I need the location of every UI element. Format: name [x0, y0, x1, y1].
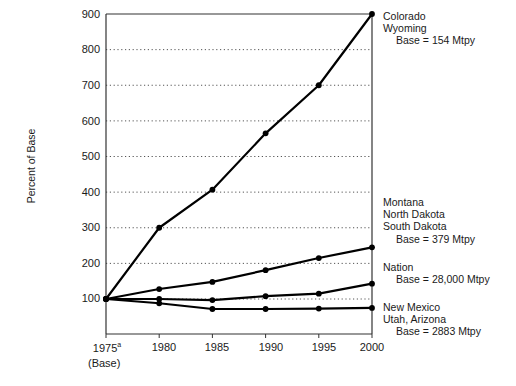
data-point-s2-1995 — [316, 291, 322, 297]
series-label-montana-dakotas: Montana North Dakota South Dakota Base =… — [383, 196, 475, 245]
series-label-line-colorado: Colorado — [383, 10, 475, 22]
series-label-new-mexico-utah-arizona: New Mexico Utah, Arizona Base = 2883 Mtp… — [383, 301, 481, 338]
data-point-s2-1985 — [210, 297, 216, 303]
data-point-s0-1980 — [156, 225, 162, 231]
series-label-line-new-mexico: New Mexico — [383, 301, 481, 313]
x-tick-2000: 2000 — [349, 341, 395, 353]
data-point-s1-2000 — [369, 244, 375, 250]
x-tick-1975-superscript: a — [117, 341, 121, 348]
series-label-line-nation: Nation — [383, 261, 490, 273]
data-point-s3-1985 — [210, 306, 216, 312]
series-layer — [103, 11, 375, 312]
data-point-s2-1990 — [263, 293, 269, 299]
plot-frame — [106, 14, 372, 338]
series-label-line-north-dakota: North Dakota — [383, 208, 475, 220]
x-tick-1995: 1995 — [301, 341, 347, 353]
series-label-line-montana: Montana — [383, 196, 475, 208]
data-point-s0-2000 — [369, 11, 375, 17]
grid-layer — [106, 50, 372, 299]
series-label-nation: Nation Base = 28,000 Mtpy — [383, 261, 490, 285]
x-tick-1975-label: 1975 — [93, 342, 117, 354]
data-point-s0-1985 — [210, 187, 216, 193]
data-point-s3-1975 — [103, 296, 109, 302]
data-point-s0-1990 — [263, 130, 269, 136]
data-point-s1-1990 — [263, 267, 269, 273]
x-tick-1990: 1990 — [248, 341, 294, 353]
data-point-s1-1995 — [316, 255, 322, 261]
series-label-line-south-dakota: South Dakota — [383, 220, 475, 232]
data-point-s3-1995 — [316, 306, 322, 312]
data-point-s3-2000 — [369, 305, 375, 311]
data-point-s3-1980 — [156, 300, 162, 306]
series-label-line-utah-arizona: Utah, Arizona — [383, 313, 481, 325]
data-point-s2-2000 — [369, 281, 375, 287]
chart-root: Coal Production Index Percent of Base 90… — [0, 0, 516, 386]
series-base-nation: Base = 28,000 Mtpy — [383, 273, 490, 285]
data-point-s3-1990 — [263, 306, 269, 312]
series-base-montana: Base = 379 Mtpy — [383, 233, 475, 245]
data-point-s1-1985 — [210, 279, 216, 285]
x-tick-1985: 1985 — [194, 341, 240, 353]
x-axis-base-note: (Base) — [88, 357, 120, 369]
data-point-s0-1995 — [316, 82, 322, 88]
series-base-colorado: Base = 154 Mtpy — [383, 34, 475, 46]
series-label-colorado-wyoming: Colorado Wyoming Base = 154 Mtpy — [383, 10, 475, 47]
series-base-new-mexico: Base = 2883 Mtpy — [383, 325, 481, 337]
data-point-s1-1980 — [156, 286, 162, 292]
series-label-line-wyoming: Wyoming — [383, 22, 475, 34]
x-tick-1980: 1980 — [141, 341, 187, 353]
x-tick-1975: 1975a — [84, 341, 130, 354]
series-line-3 — [106, 299, 372, 309]
